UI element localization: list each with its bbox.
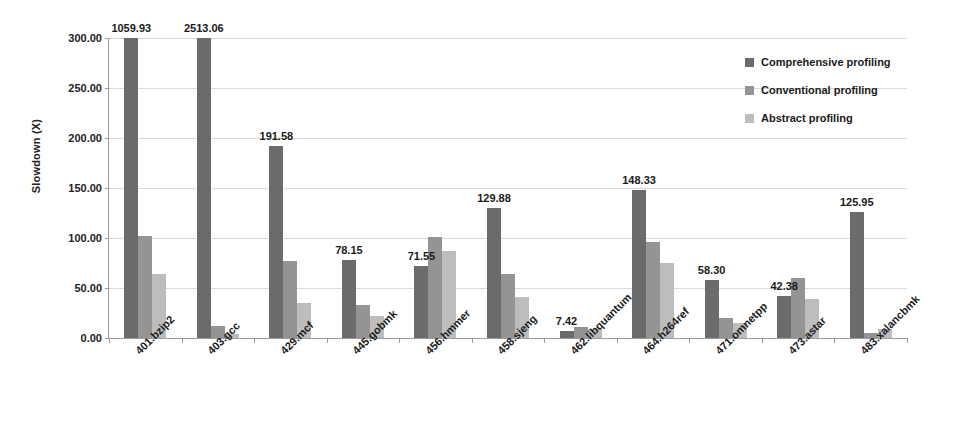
x-tick-mark bbox=[544, 338, 545, 343]
y-tick-label: 50.00 bbox=[74, 282, 102, 294]
bar[interactable] bbox=[560, 331, 574, 338]
bar-group: 71.55 bbox=[399, 38, 472, 338]
legend-swatch-icon bbox=[745, 86, 754, 95]
bar-value-label: 125.95 bbox=[840, 196, 874, 208]
x-tick-mark bbox=[689, 338, 690, 343]
legend-label: Conventional profiling bbox=[761, 84, 878, 96]
bar-group: 1059.93 bbox=[109, 38, 182, 338]
legend-swatch-icon bbox=[745, 58, 754, 67]
bar-group-bars bbox=[109, 38, 182, 338]
y-tick-label: 250.00 bbox=[68, 82, 102, 94]
y-tick-label: 300.00 bbox=[68, 32, 102, 44]
y-axis-title: Slowdown (X) bbox=[30, 86, 42, 226]
bar-value-label: 71.55 bbox=[408, 250, 436, 262]
x-tick-mark bbox=[834, 338, 835, 343]
bar[interactable] bbox=[646, 242, 660, 338]
bar[interactable] bbox=[705, 280, 719, 338]
x-tick-mark bbox=[182, 338, 183, 343]
bar-group-bars bbox=[254, 38, 327, 338]
bar-value-label: 129.88 bbox=[477, 192, 511, 204]
bar[interactable] bbox=[197, 38, 211, 338]
bar[interactable] bbox=[414, 266, 428, 338]
bar-value-label: 148.33 bbox=[622, 174, 656, 186]
bar-value-label: 42.38 bbox=[770, 280, 798, 292]
x-tick-mark bbox=[109, 338, 110, 343]
bar-chart: Slowdown (X) 0.0050.00100.00150.00200.00… bbox=[0, 0, 960, 440]
bar-group: 191.58 bbox=[254, 38, 327, 338]
x-tick-mark bbox=[472, 338, 473, 343]
bar-group-bars bbox=[544, 38, 617, 338]
bar-value-label: 7.42 bbox=[556, 315, 577, 327]
bar[interactable] bbox=[487, 208, 501, 338]
legend-item[interactable]: Conventional profiling bbox=[745, 76, 891, 104]
bar-value-label: 58.30 bbox=[698, 264, 726, 276]
bar-group-bars bbox=[472, 38, 545, 338]
y-tick-label: 200.00 bbox=[68, 132, 102, 144]
chart-legend: Comprehensive profilingConventional prof… bbox=[745, 48, 891, 132]
legend-item[interactable]: Comprehensive profiling bbox=[745, 48, 891, 76]
bar-group: 2513.06 bbox=[182, 38, 255, 338]
bar[interactable] bbox=[138, 236, 152, 338]
y-tick-label: 0.00 bbox=[81, 332, 102, 344]
bar-value-label: 78.15 bbox=[335, 244, 363, 256]
bar-group-bars bbox=[182, 38, 255, 338]
y-tick-label: 150.00 bbox=[68, 182, 102, 194]
legend-item[interactable]: Abstract profiling bbox=[745, 104, 891, 132]
legend-swatch-icon bbox=[745, 114, 754, 123]
bar[interactable] bbox=[632, 190, 646, 338]
bar-value-label: 191.58 bbox=[260, 130, 294, 142]
bar-group: 78.15 bbox=[327, 38, 400, 338]
x-tick-mark bbox=[907, 338, 908, 343]
bar[interactable] bbox=[124, 38, 138, 338]
x-tick-mark bbox=[762, 338, 763, 343]
legend-label: Comprehensive profiling bbox=[761, 56, 891, 68]
x-tick-mark bbox=[399, 338, 400, 343]
bar[interactable] bbox=[850, 212, 864, 338]
bar-group: 7.42 bbox=[544, 38, 617, 338]
bar-value-label: 1059.93 bbox=[111, 22, 151, 34]
x-tick-mark bbox=[254, 338, 255, 343]
y-tick-label: 100.00 bbox=[68, 232, 102, 244]
bar-group: 129.88 bbox=[472, 38, 545, 338]
bar[interactable] bbox=[342, 260, 356, 338]
bar-group-bars bbox=[327, 38, 400, 338]
bar[interactable] bbox=[269, 146, 283, 338]
bar[interactable] bbox=[777, 296, 791, 338]
x-tick-mark bbox=[617, 338, 618, 343]
bar-value-label: 2513.06 bbox=[184, 22, 224, 34]
bar[interactable] bbox=[283, 261, 297, 338]
bar-group-bars bbox=[399, 38, 472, 338]
legend-label: Abstract profiling bbox=[761, 112, 853, 124]
x-tick-mark bbox=[327, 338, 328, 343]
